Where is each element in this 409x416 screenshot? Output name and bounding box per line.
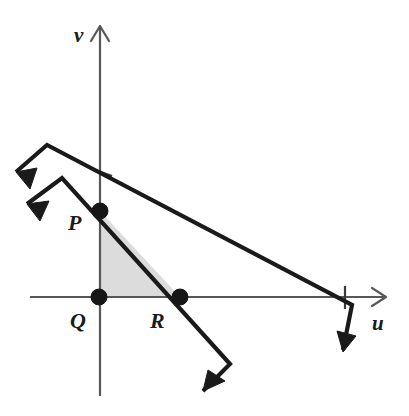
vertex-dot-p (92, 203, 108, 219)
uv-plane-figure: P Q R u v (0, 0, 409, 416)
shaded-region-pqr (99, 211, 180, 297)
steep-line-upper-arrowhead-icon (27, 201, 49, 221)
v-axis-label: v (74, 23, 84, 47)
diagram-canvas: P Q R u v (0, 0, 409, 416)
shallow-constraint-line (16, 145, 352, 350)
point-label-p: P (67, 210, 82, 235)
point-label-q: Q (70, 308, 86, 333)
u-axis-label: u (372, 311, 384, 335)
vertex-dot-q (91, 289, 107, 305)
shallow-line-upper-arrowhead-icon (16, 168, 37, 189)
point-label-r: R (149, 308, 165, 333)
shallow-line-lower-arrowhead-icon (337, 331, 356, 352)
vertex-dot-r (172, 289, 188, 305)
